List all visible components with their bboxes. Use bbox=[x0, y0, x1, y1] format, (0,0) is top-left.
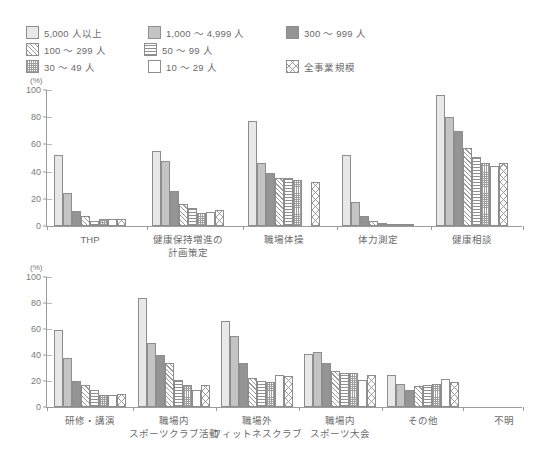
legend-item-s50[interactable]: 50 〜 99 人 bbox=[144, 41, 234, 58]
bar[interactable] bbox=[192, 390, 201, 407]
bar[interactable] bbox=[179, 204, 188, 226]
chart-1-category-label: 健康保持増進の計画策定 bbox=[153, 233, 223, 259]
bar[interactable] bbox=[165, 363, 174, 407]
bar[interactable] bbox=[331, 371, 340, 407]
bar[interactable] bbox=[170, 191, 179, 226]
bar[interactable] bbox=[275, 375, 284, 408]
bar[interactable] bbox=[360, 216, 369, 226]
bar[interactable] bbox=[90, 221, 99, 226]
bar[interactable] bbox=[239, 363, 248, 407]
bar[interactable] bbox=[304, 354, 313, 407]
bar[interactable] bbox=[108, 219, 117, 226]
bar[interactable] bbox=[108, 395, 117, 407]
chart-2-group-3: 職場内スポーツ大会 bbox=[303, 277, 377, 407]
bar[interactable] bbox=[378, 223, 387, 226]
bar[interactable] bbox=[414, 386, 423, 407]
bar[interactable] bbox=[387, 375, 396, 408]
bar[interactable] bbox=[152, 151, 161, 226]
bar[interactable] bbox=[284, 376, 293, 407]
bar[interactable] bbox=[72, 381, 81, 407]
bar[interactable] bbox=[81, 385, 90, 407]
legend-item-s30[interactable]: 30 〜 49 人 bbox=[26, 58, 134, 75]
bar[interactable] bbox=[138, 298, 147, 407]
legend-item-s5000[interactable]: 5,000 人以上 bbox=[26, 24, 134, 41]
bar[interactable] bbox=[201, 385, 210, 407]
bar[interactable] bbox=[405, 390, 414, 407]
bar[interactable] bbox=[396, 384, 405, 407]
legend-item-s100[interactable]: 100 〜 299 人 bbox=[26, 41, 130, 58]
bar[interactable] bbox=[248, 121, 257, 226]
chart-2-y-unit: (%) bbox=[30, 263, 42, 272]
bar[interactable] bbox=[230, 336, 239, 408]
bar[interactable] bbox=[54, 155, 63, 226]
bar[interactable] bbox=[499, 163, 508, 226]
bar[interactable] bbox=[387, 224, 396, 226]
bar[interactable] bbox=[99, 219, 108, 226]
bar[interactable] bbox=[284, 178, 293, 226]
bar[interactable] bbox=[156, 355, 165, 407]
bar[interactable] bbox=[322, 363, 331, 407]
legend-swatch-s5000-icon bbox=[26, 26, 39, 39]
bar[interactable] bbox=[161, 161, 170, 226]
chart-2-bar-group bbox=[468, 277, 540, 407]
bar[interactable] bbox=[221, 321, 230, 407]
bar[interactable] bbox=[99, 395, 108, 407]
bar[interactable] bbox=[183, 385, 192, 407]
legend-item-s1000[interactable]: 1,000 〜 4,999 人 bbox=[148, 24, 272, 41]
bar[interactable] bbox=[490, 166, 499, 226]
chart-2-category-label: その他 bbox=[408, 414, 438, 427]
bar[interactable] bbox=[450, 382, 459, 407]
bar[interactable] bbox=[63, 193, 72, 226]
bar[interactable] bbox=[147, 343, 156, 407]
legend-item-sall[interactable]: 全事業規模 bbox=[286, 58, 398, 75]
bar[interactable] bbox=[266, 173, 275, 226]
bar[interactable] bbox=[266, 382, 275, 407]
bar[interactable] bbox=[72, 211, 81, 226]
bar[interactable] bbox=[405, 224, 414, 226]
bar[interactable] bbox=[206, 212, 215, 226]
chart-1-group-0: THP bbox=[53, 90, 127, 226]
chart-2-category-label: 職場内スポーツ大会 bbox=[310, 414, 370, 440]
bar[interactable] bbox=[174, 380, 183, 407]
bar[interactable] bbox=[367, 375, 376, 408]
legend-item-s10[interactable]: 10 〜 29 人 bbox=[148, 58, 272, 75]
bar[interactable] bbox=[63, 358, 72, 407]
bar[interactable] bbox=[454, 131, 463, 226]
bar[interactable] bbox=[396, 224, 405, 226]
bar[interactable] bbox=[248, 378, 257, 407]
bar[interactable] bbox=[54, 330, 63, 407]
bar[interactable] bbox=[445, 117, 454, 226]
bar[interactable] bbox=[351, 202, 360, 226]
bar[interactable] bbox=[313, 352, 322, 407]
bar[interactable] bbox=[311, 182, 320, 226]
bar[interactable] bbox=[340, 373, 349, 407]
chart-2-container: (%) 020406080100 研修・講演職場内スポーツクラブ活動職場外フィッ… bbox=[0, 263, 544, 459]
bar[interactable] bbox=[293, 180, 302, 226]
bar[interactable] bbox=[188, 208, 197, 226]
bar[interactable] bbox=[349, 373, 358, 407]
bar[interactable] bbox=[117, 394, 126, 407]
bar[interactable] bbox=[81, 216, 90, 226]
bar[interactable] bbox=[90, 390, 99, 407]
bar[interactable] bbox=[358, 380, 367, 407]
bar[interactable] bbox=[472, 157, 481, 226]
bar[interactable] bbox=[257, 381, 266, 407]
chart-2-group-0: 研修・講演 bbox=[53, 277, 127, 407]
bar[interactable] bbox=[463, 148, 472, 226]
bar[interactable] bbox=[257, 163, 266, 226]
legend-swatch-s100-icon bbox=[26, 43, 39, 56]
bar[interactable] bbox=[432, 384, 441, 407]
bar[interactable] bbox=[423, 385, 432, 407]
bar[interactable] bbox=[436, 95, 445, 226]
bar[interactable] bbox=[197, 213, 206, 226]
bar[interactable] bbox=[342, 155, 351, 226]
bar[interactable] bbox=[215, 210, 224, 226]
bar[interactable] bbox=[481, 163, 490, 226]
bar[interactable] bbox=[117, 219, 126, 226]
chart-page: 5,000 人以上1,000 〜 4,999 人300 〜 999 人100 〜… bbox=[0, 0, 544, 459]
bar[interactable] bbox=[441, 379, 450, 407]
legend-item-s300[interactable]: 300 〜 999 人 bbox=[286, 24, 398, 41]
bar[interactable] bbox=[275, 178, 284, 226]
category-label-line: THP bbox=[81, 233, 100, 246]
bar[interactable] bbox=[369, 221, 378, 226]
